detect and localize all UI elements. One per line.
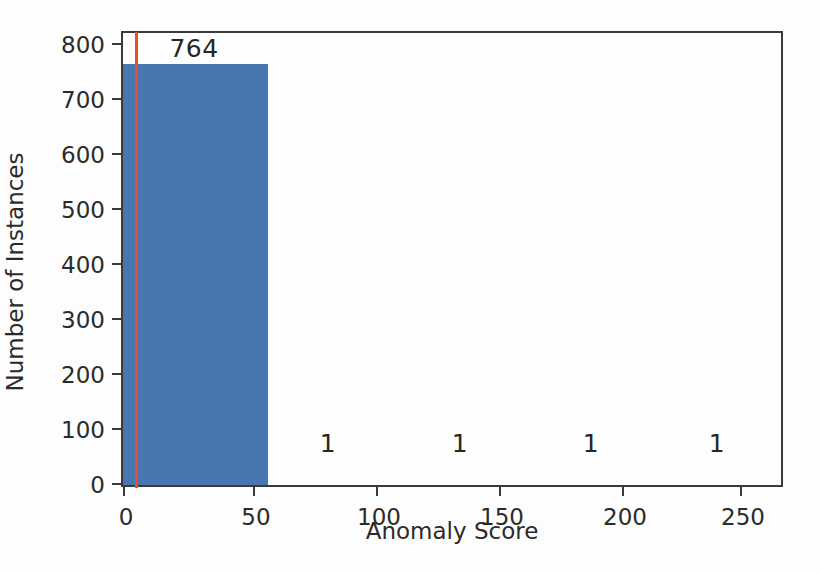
x-tick-250: 250 [740,485,742,496]
y-tick-500: 500 [112,208,123,210]
histogram-bar [123,64,268,485]
y-tick-label-700: 700 [61,87,105,113]
bar-value-label: 1 [709,429,725,458]
y-tick-label-0: 0 [90,472,105,498]
y-tick-label-500: 500 [61,197,105,223]
y-tick-label-600: 600 [61,142,105,168]
x-tick-50: 50 [253,485,255,496]
x-tick-150: 150 [499,485,501,496]
y-axis-label: Number of Instances [2,153,28,392]
y-tick-800: 800 [112,43,123,45]
x-tick-100: 100 [376,485,378,496]
y-tick-300: 300 [112,318,123,320]
bar-value-label: 1 [583,429,599,458]
y-tick-label-300: 300 [61,307,105,333]
y-tick-label-100: 100 [61,417,105,443]
y-tick-700: 700 [112,98,123,100]
y-tick-label-400: 400 [61,252,105,278]
bar-value-label: 1 [452,429,468,458]
x-tick-0: 0 [123,485,125,496]
y-tick-0: 0 [112,483,123,485]
y-tick-label-800: 800 [61,32,105,58]
x-axis-label: Anomaly Score [121,518,783,544]
chart-figure: Number of Instances 800 700 600 500 400 … [0,0,821,574]
x-tick-200: 200 [622,485,624,496]
bar-value-label: 1 [320,429,336,458]
y-tick-100: 100 [112,428,123,430]
y-tick-600: 600 [112,153,123,155]
plot-area: 800 700 600 500 400 300 200 100 0 0 [121,31,783,487]
y-axis-label-container: Number of Instances [18,31,42,487]
y-tick-label-200: 200 [61,362,105,388]
bar-value-label: 764 [170,34,219,63]
y-tick-200: 200 [112,373,123,375]
y-tick-400: 400 [112,263,123,265]
threshold-line [135,32,138,488]
